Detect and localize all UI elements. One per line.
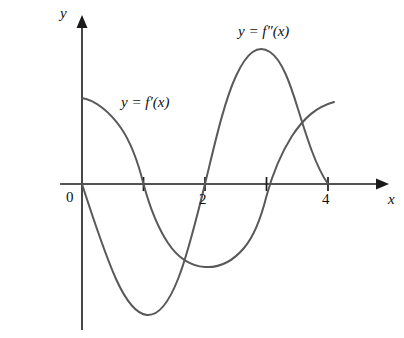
x-tick-label-2: 2 bbox=[199, 192, 207, 207]
graph-canvas bbox=[0, 0, 404, 338]
y-axis bbox=[77, 15, 88, 330]
curve-label-f-double-prime: y = f″(x) bbox=[238, 24, 289, 39]
curve-label-f-prime: y = f′(x) bbox=[121, 95, 169, 110]
x-axis bbox=[60, 179, 389, 190]
origin-label: 0 bbox=[66, 190, 74, 205]
x-tick-label-4: 4 bbox=[322, 192, 330, 207]
x-axis-label: x bbox=[388, 192, 395, 207]
graph-figure: y x 0 2 4 y = f′(x) y = f″(x) bbox=[0, 0, 404, 338]
curve-f-prime bbox=[82, 98, 334, 267]
y-axis-label: y bbox=[60, 6, 67, 21]
curve-f-double-prime bbox=[82, 49, 328, 315]
